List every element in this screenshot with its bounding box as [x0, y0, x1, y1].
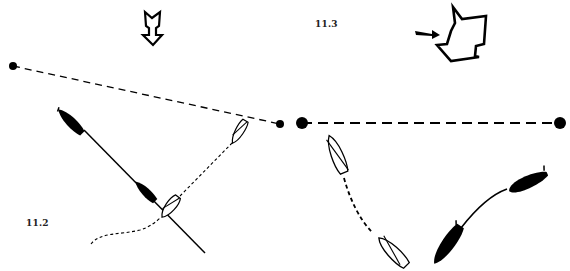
- white-boat-lower: [158, 194, 182, 221]
- white-boat-track: [91, 139, 236, 244]
- mark-left-2: [276, 120, 284, 128]
- diagram-canvas: 11.2 11.3: [0, 0, 570, 271]
- black-boat-upper-right: [505, 165, 550, 195]
- outline-boat-track: [344, 178, 372, 232]
- figure-label-left: 11.2: [26, 218, 49, 228]
- left-diagram: [9, 12, 284, 253]
- outline-boat-upper: [324, 133, 350, 175]
- outline-boat-lower: [375, 234, 411, 270]
- black-boat-mid: [132, 178, 158, 204]
- black-boat-track-right: [461, 189, 507, 228]
- figure-label-right: 11.3: [315, 19, 338, 29]
- wind-arrow-icon: [143, 12, 162, 45]
- wind-shift-arrow-icon: [437, 7, 486, 61]
- mark-left-1: [9, 62, 17, 70]
- start-line-left: [13, 66, 280, 124]
- pointer-arrow-icon: [415, 30, 440, 39]
- black-boat-upper: [54, 105, 86, 137]
- mark-right-2: [554, 117, 566, 129]
- mark-right-1: [296, 117, 308, 129]
- black-boat-lower-right: [429, 220, 468, 267]
- right-diagram: [296, 7, 566, 270]
- white-boat-upper: [229, 119, 249, 146]
- diagram-drawing: [0, 0, 570, 271]
